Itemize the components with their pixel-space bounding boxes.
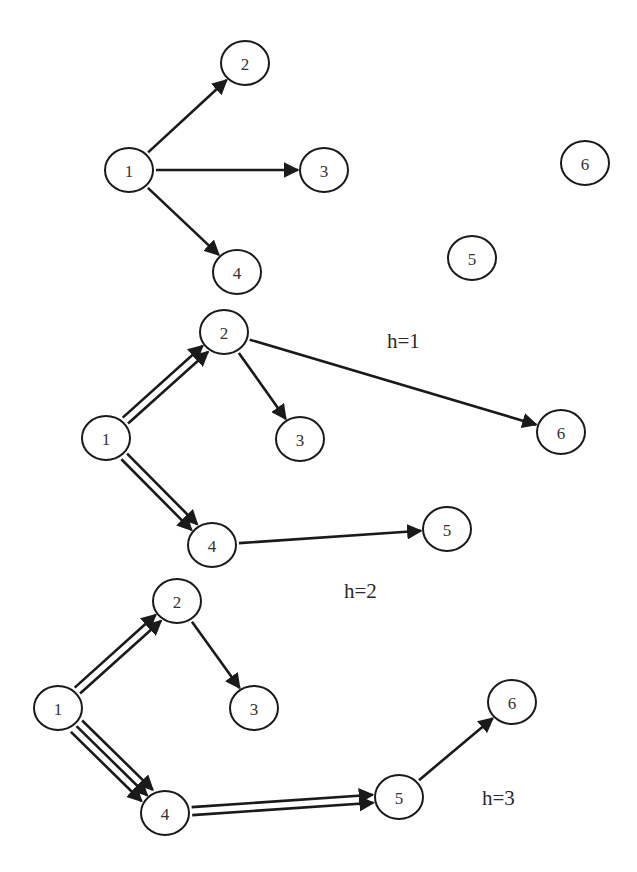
node-h0-3: 3 [300,148,348,192]
node-label: 6 [557,424,566,443]
edge-h2-1-to-4-2 [77,726,148,795]
node-label: 1 [102,430,111,449]
node-label: 5 [443,521,452,540]
node-label: 1 [125,162,134,181]
node-h1-4: 4 [188,523,236,567]
node-label: 2 [173,593,182,612]
node-label: 6 [581,155,590,174]
edge-h1-1-to-4-1 [127,454,197,525]
node-h1-3: 3 [276,417,324,461]
edge-h1-1-to-2-2 [128,352,208,424]
node-label: 3 [296,431,305,450]
node-label: 2 [241,55,250,74]
node-label: 3 [320,162,329,181]
nodes-layer: 123456123456123456 [34,41,609,835]
node-h2-4: 4 [141,791,189,835]
iteration-label: h=1 [387,329,420,353]
node-label: 5 [395,789,404,808]
iteration-label: h=2 [344,579,377,603]
node-h2-6: 6 [488,680,536,724]
node-h0-1: 1 [105,148,153,192]
flow-network-diagram: 123456123456123456 h=1h=2h=3 [0,0,637,872]
node-label: 4 [208,537,217,556]
node-h2-2: 2 [153,579,201,623]
edge-h0-1-to-4 [148,188,219,255]
node-label: 6 [508,694,517,713]
node-h1-6: 6 [537,410,585,454]
node-h0-6: 6 [561,141,609,185]
node-h1-1: 1 [82,416,130,460]
edge-h1-1-to-4-2 [121,459,191,530]
edge-h2-1-to-4-1 [82,720,153,789]
edge-h1-1-to-2-1 [123,346,203,418]
edge-h0-1-to-2 [148,80,226,152]
node-label: 4 [161,805,170,824]
edge-h1-2-to-3 [239,353,286,419]
node-label: 5 [468,250,477,269]
node-h0-2: 2 [221,41,269,85]
node-h0-4: 4 [213,250,261,294]
labels-layer: h=1h=2h=3 [344,329,515,810]
iteration-label: h=3 [482,786,515,810]
edge-h2-1-to-4-3 [71,732,142,801]
node-h2-5: 5 [375,775,423,819]
node-label: 4 [233,264,242,283]
edge-h2-5-to-6 [419,718,493,780]
node-label: 3 [250,700,259,719]
edge-h2-2-to-3 [192,622,240,688]
node-h2-3: 3 [230,686,278,730]
node-h0-5: 5 [448,236,496,280]
edge-h1-4-to-5 [239,531,421,543]
node-h2-1: 1 [34,686,82,730]
node-label: 2 [220,324,229,343]
node-label: 1 [54,700,63,719]
node-h1-2: 2 [200,310,248,354]
edge-h2-1-to-2-2 [80,621,161,694]
edge-h2-1-to-2-1 [75,615,156,688]
node-h1-5: 5 [423,507,471,551]
